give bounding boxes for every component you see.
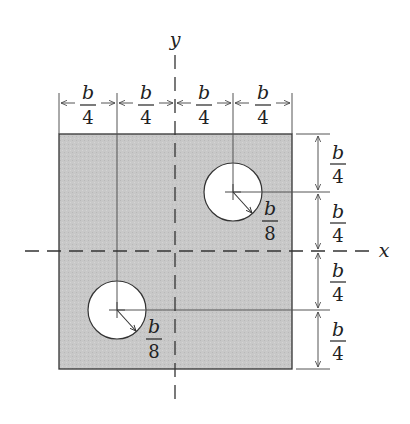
right-dim-1-num: b (332, 141, 344, 163)
x-axis-label: x (379, 239, 390, 261)
right-dim-3-den: 4 (332, 284, 343, 305)
upper-hole-radius-den: 8 (264, 223, 275, 244)
right-dim-4-num: b (332, 318, 344, 340)
top-dim-4-num: b (257, 81, 269, 103)
top-dim-1-den: 4 (82, 107, 93, 128)
right-dim-2-num: b (332, 200, 344, 222)
right-dim-2-den: 4 (332, 225, 343, 246)
right-dim-1-den: 4 (332, 166, 343, 187)
top-dim-1-num: b (82, 81, 94, 103)
right-dim-3-num: b (332, 259, 344, 281)
top-dim-2-den: 4 (140, 107, 151, 128)
lower-hole-radius-num: b (148, 315, 160, 337)
top-dim-4-den: 4 (257, 107, 268, 128)
right-dimension-labels: b 4 b 4 b 4 b 4 (330, 141, 346, 364)
y-axis-label: y (169, 28, 181, 50)
top-dim-3-num: b (198, 81, 210, 103)
top-dim-2-num: b (140, 81, 152, 103)
top-dim-3-den: 4 (198, 107, 209, 128)
lower-hole-radius-den: 8 (148, 341, 159, 362)
right-dim-4-den: 4 (332, 343, 343, 364)
upper-hole-radius-num: b (264, 197, 276, 219)
plate-with-holes-diagram: y x b 4 b 4 b 4 b 4 b 4 b 4 b 4 b 4 b 8 … (0, 0, 410, 424)
